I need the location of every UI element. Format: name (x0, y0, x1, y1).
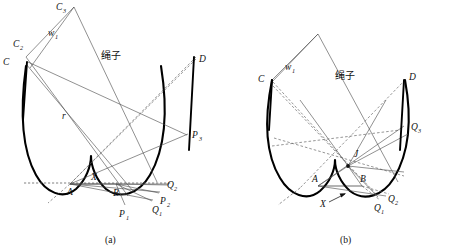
label-p1-a: P (118, 209, 125, 219)
caption-a: (a) (105, 235, 116, 246)
line-j-to-right-b (348, 166, 404, 172)
label-x-a: X (90, 172, 98, 182)
label-x-b: X (319, 199, 327, 209)
label-p3-sub-a: 3 (198, 135, 202, 142)
label-w1-sub-a: 1 (55, 33, 58, 40)
label-q2-a: Q (167, 180, 174, 190)
dashed-d-to-a-a (70, 57, 196, 184)
segment-c-to-p2-a (26, 64, 133, 191)
line-j-up-left-b (300, 100, 348, 166)
label-rope-a: 绳子 (101, 49, 121, 61)
dashed-right-mid-b (272, 130, 400, 146)
label-w1-b: w (285, 62, 292, 72)
label-c-b: C (258, 74, 265, 84)
label-p1-sub-a: 1 (126, 214, 129, 221)
x-arrow-head-b (340, 193, 346, 197)
label-c2-sub-a: 2 (20, 44, 23, 51)
label-c3-a: C (56, 2, 63, 12)
figure-root: C 3 C 2 C D w 1 绳子 r A B X P 1 P 2 P 3 Q… (0, 0, 461, 250)
label-q1-b: Q (374, 203, 381, 213)
label-w1-a: w (48, 28, 55, 38)
label-p2-a: P (159, 196, 166, 206)
line-a-to-q2-b (318, 186, 386, 196)
geometry-figure: C 3 C 2 C D w 1 绳子 r A B X P 1 P 2 P 3 Q… (0, 0, 461, 250)
dashed-c-to-j-b (273, 82, 348, 164)
label-q3-b: Q (411, 122, 418, 132)
caption-b: (b) (340, 235, 351, 246)
label-w1-sub-b: 1 (292, 67, 295, 74)
rope-segment-upper-a (74, 7, 157, 182)
label-q3-sub-b: 3 (417, 127, 421, 134)
label-p3-a: P (191, 130, 198, 140)
label-q2-sub-b: 2 (395, 199, 398, 206)
line-c-to-p3-a (28, 62, 187, 135)
label-r-a: r (62, 111, 66, 121)
line-b-to-q1-a (116, 184, 152, 201)
label-a-b: A (311, 174, 318, 184)
label-a-a: A (66, 187, 73, 197)
point-j-dot-b (346, 164, 350, 168)
label-b-a: B (113, 188, 119, 198)
label-p2-sub-a: 2 (167, 201, 170, 208)
segment-r-a (26, 57, 128, 196)
right-wall-accent-b (400, 80, 404, 150)
rope-segment-upper-b (318, 34, 398, 182)
panel-b: C D w 1 绳子 A B X J Q 3 Q 1 Q 2 (b) (258, 34, 421, 246)
panel-a: C 3 C 2 C D w 1 绳子 r A B X P 1 P 2 P 3 Q… (3, 2, 206, 246)
label-q1-sub-a: 1 (159, 210, 162, 217)
label-q1-a: Q (152, 205, 159, 215)
bowl-outline-b (267, 80, 408, 197)
label-j-b: J (354, 149, 359, 159)
label-d-a: D (198, 54, 206, 64)
label-c-a: C (3, 57, 10, 67)
label-q2-sub-a: 2 (174, 185, 177, 192)
label-q1-sub-b: 1 (381, 208, 384, 215)
label-c3-sub-a: 3 (62, 7, 66, 14)
label-q2-b: Q (388, 194, 395, 204)
label-d-b: D (408, 72, 416, 82)
label-b-b: B (360, 174, 366, 184)
label-rope-b: 绳子 (335, 69, 355, 81)
label-c2-a: C (13, 39, 20, 49)
